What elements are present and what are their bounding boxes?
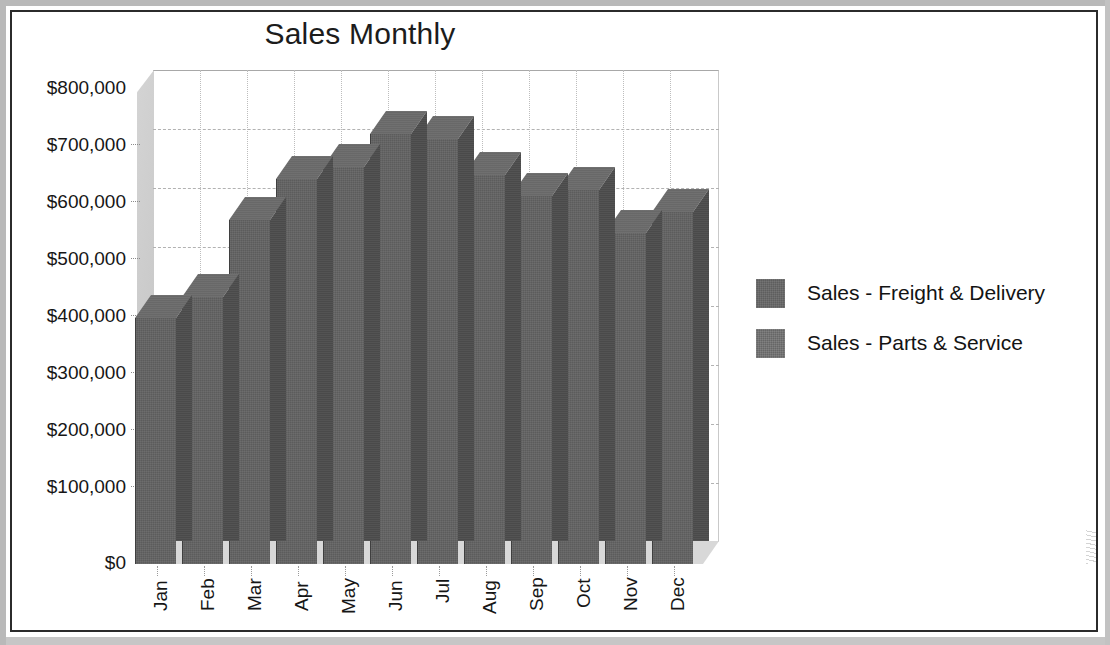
x-tick-dec	[674, 566, 675, 576]
x-tick-apr	[298, 566, 299, 576]
x-axis-label-jan: Jan	[150, 580, 172, 611]
x-axis-label-aug: Aug	[479, 580, 501, 614]
x-axis-label-may: May	[338, 578, 360, 614]
x-axis-label-jun: Jun	[385, 580, 407, 611]
x-tick-aug	[486, 566, 487, 576]
x-axis-label-nov: Nov	[620, 577, 642, 611]
x-axis-label-dec: Dec	[667, 577, 689, 611]
legend-item-parts-service[interactable]: Sales - Parts & Service	[756, 318, 1086, 368]
x-axis-label-jul: Jul	[432, 579, 454, 603]
legend-label-parts-service: Sales - Parts & Service	[807, 331, 1023, 355]
x-tick-sep	[533, 566, 534, 576]
chart-legend: Sales - Freight & Delivery Sales - Parts…	[756, 268, 1086, 368]
x-axis-label-sep: Sep	[526, 577, 548, 611]
x-tick-jul	[439, 566, 440, 576]
x-tick-feb	[204, 566, 205, 576]
x-axis-label-feb: Feb	[197, 578, 219, 611]
x-tick-oct	[580, 566, 581, 576]
x-axis-label-mar: Mar	[244, 578, 266, 611]
legend-swatch-freight-delivery	[756, 279, 785, 308]
legend-label-freight-delivery: Sales - Freight & Delivery	[807, 281, 1045, 305]
x-tick-mar	[251, 566, 252, 576]
chart-page: Sales Monthly $800,00	[0, 0, 1110, 645]
x-axis-label-apr: Apr	[291, 581, 313, 611]
legend-item-freight-delivery[interactable]: Sales - Freight & Delivery	[756, 268, 1086, 318]
x-tick-nov	[627, 566, 628, 576]
legend-swatch-parts-service	[756, 329, 785, 358]
x-tick-jan	[157, 566, 158, 576]
scan-artifact	[1086, 530, 1096, 564]
x-tick-jun	[392, 566, 393, 576]
x-tick-may	[345, 566, 346, 576]
x-axis-label-oct: Oct	[573, 578, 595, 608]
